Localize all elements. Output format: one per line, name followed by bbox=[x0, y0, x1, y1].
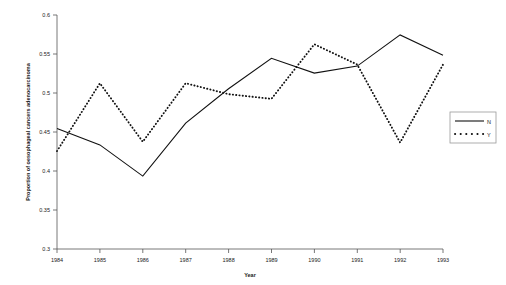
x-tick-label: 1991 bbox=[351, 257, 363, 263]
x-tick-label: 1989 bbox=[265, 257, 277, 263]
x-tick-label: 1987 bbox=[180, 257, 192, 263]
x-tick-label: 1992 bbox=[394, 257, 406, 263]
y-tick-label: 0.45 bbox=[39, 129, 50, 135]
x-tick-label: 1993 bbox=[437, 257, 449, 263]
x-tick-label: 1986 bbox=[137, 257, 149, 263]
y-tick-label: 0.5 bbox=[42, 90, 50, 96]
x-axis-title: Year bbox=[244, 272, 256, 278]
legend-label-y: Y bbox=[487, 132, 491, 138]
y-tick-label: 0.35 bbox=[39, 207, 50, 213]
x-tick-label: 1985 bbox=[94, 257, 106, 263]
y-axis-title: Proportion of oesophageal cancers adenoc… bbox=[25, 62, 31, 200]
y-tick-label: 0.3 bbox=[42, 246, 50, 252]
x-tick-label: 1984 bbox=[51, 257, 63, 263]
y-tick-label: 0.55 bbox=[39, 51, 50, 57]
chart-legend: N Y bbox=[450, 112, 496, 143]
legend-label-n: N bbox=[487, 119, 491, 125]
y-tick-label: 0.6 bbox=[42, 12, 50, 18]
legend-box bbox=[450, 112, 496, 143]
y-tick-label: 0.4 bbox=[42, 168, 50, 174]
x-tick-label: 1988 bbox=[222, 257, 234, 263]
figure-background bbox=[0, 0, 506, 285]
chart-figure: 0.3 0.35 0.4 0.45 0.5 0.55 0.6 1984 1985… bbox=[0, 0, 506, 285]
x-tick-label: 1990 bbox=[308, 257, 320, 263]
